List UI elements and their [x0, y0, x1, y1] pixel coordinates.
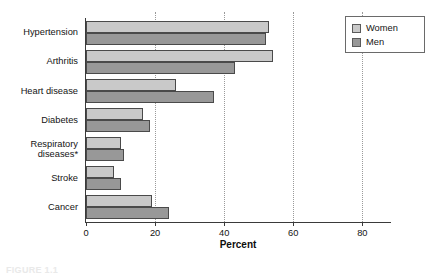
category-label: Arthritis	[0, 56, 78, 67]
bar	[86, 195, 152, 207]
x-tick-label-20: 20	[135, 228, 175, 238]
x-axis-title: Percent	[86, 239, 390, 250]
x-tick-40	[224, 222, 225, 226]
bar	[86, 120, 150, 132]
bar	[86, 50, 273, 62]
category-label: Stroke	[0, 173, 78, 184]
bar	[86, 149, 124, 161]
category-label: Respiratory diseases*	[0, 139, 78, 160]
bar	[86, 108, 143, 120]
legend-item-men: Men	[352, 35, 424, 49]
legend-item-women: Women	[352, 21, 424, 35]
figure-caption: FIGURE 1.1	[6, 265, 58, 275]
bar	[86, 21, 269, 33]
x-tick-label-80: 80	[342, 228, 382, 238]
legend-swatch-men-icon	[352, 38, 361, 47]
bar	[86, 91, 214, 103]
x-tick-60	[293, 222, 294, 226]
x-tick-80	[362, 222, 363, 226]
bar	[86, 62, 235, 74]
category-label: Diabetes	[0, 115, 78, 126]
chart-legend: Women Men	[345, 16, 425, 53]
gridline-60	[293, 12, 294, 222]
x-axis-line	[85, 222, 391, 223]
category-label: Hypertension	[0, 27, 78, 38]
bar	[86, 33, 266, 45]
x-tick-label-40: 40	[204, 228, 244, 238]
bar	[86, 166, 114, 178]
bar	[86, 79, 176, 91]
legend-label-men: Men	[366, 37, 384, 47]
category-label: Heart disease	[0, 86, 78, 97]
x-tick-20	[155, 222, 156, 226]
bar	[86, 178, 121, 190]
category-axis-labels: HypertensionArthritisHeart diseaseDiabet…	[0, 18, 82, 222]
category-label: Cancer	[0, 202, 78, 213]
bar	[86, 137, 121, 149]
x-tick-label-0: 0	[66, 228, 106, 238]
x-tick-label-60: 60	[273, 228, 313, 238]
x-tick-0	[86, 222, 87, 226]
legend-label-women: Women	[366, 23, 398, 33]
bar	[86, 207, 169, 219]
bar-chart-figure: HypertensionArthritisHeart diseaseDiabet…	[0, 0, 433, 278]
legend-swatch-women-icon	[352, 24, 361, 33]
